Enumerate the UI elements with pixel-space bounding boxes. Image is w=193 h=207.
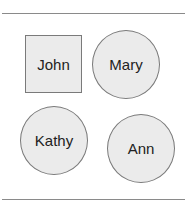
node-ann: Ann: [107, 114, 175, 183]
bottom-divider: [2, 199, 185, 200]
node-mary: Mary: [92, 30, 160, 99]
node-label: Mary: [109, 56, 142, 73]
node-label: Kathy: [35, 132, 73, 149]
top-divider: [2, 13, 185, 14]
node-label: Ann: [128, 140, 155, 157]
node-kathy: Kathy: [20, 106, 88, 175]
node-label: John: [37, 56, 70, 73]
node-john: John: [25, 35, 82, 93]
